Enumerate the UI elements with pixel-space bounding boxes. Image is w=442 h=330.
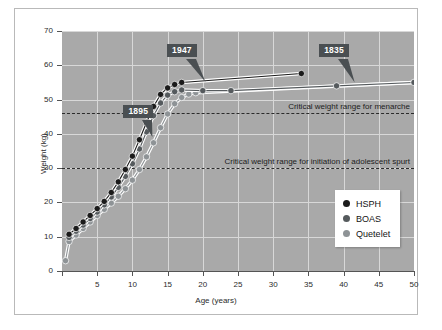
x-tick — [97, 271, 98, 276]
data-point — [73, 225, 79, 231]
y-tick-label: 20 — [31, 197, 53, 206]
x-tick — [379, 271, 380, 276]
y-tick-label: 0 — [31, 266, 53, 275]
data-point — [66, 231, 72, 237]
y-tick-label: 10 — [31, 232, 53, 241]
legend-item-boas: BOAS — [343, 211, 390, 226]
x-tick — [168, 271, 169, 276]
legend-marker-icon — [343, 200, 350, 207]
data-point — [108, 189, 114, 195]
x-tick — [414, 271, 415, 276]
data-point — [171, 100, 177, 106]
x-tick — [238, 271, 239, 276]
y-tick-label: 60 — [31, 60, 53, 69]
callout-1895: 1895 — [123, 105, 153, 119]
data-point — [171, 81, 177, 87]
data-point — [171, 88, 177, 94]
y-tick-label: 70 — [31, 26, 53, 35]
callout-tail-1835 — [335, 59, 395, 96]
data-point — [62, 258, 68, 264]
data-point — [143, 154, 149, 160]
callout-1835: 1835 — [319, 44, 349, 58]
x-tick — [132, 271, 133, 276]
x-tick-label: 30 — [262, 280, 284, 289]
data-point — [157, 91, 163, 97]
legend-marker-icon — [343, 215, 350, 222]
figure-frame: 010203040506070 5101520253035404550 Weig… — [14, 8, 418, 315]
x-tick-label: 15 — [157, 280, 179, 289]
callout-1947: 1947 — [167, 44, 197, 58]
y-tick-label: 50 — [31, 95, 53, 104]
data-point — [80, 219, 86, 225]
data-point — [122, 166, 128, 172]
legend-marker-icon — [343, 230, 350, 237]
x-tick — [62, 271, 63, 276]
x-tick-label: 40 — [333, 280, 355, 289]
x-tick-label: 25 — [227, 280, 249, 289]
legend-label: HSPH — [356, 199, 381, 209]
data-point — [178, 94, 184, 100]
legend-item-quetelet: Quetelet — [343, 226, 390, 241]
data-point — [164, 111, 170, 117]
y-axis-title: Weight (kg) — [39, 133, 48, 174]
data-point — [115, 193, 121, 199]
chart-legend: HSPHBOASQuetelet — [335, 190, 400, 247]
data-point — [411, 79, 414, 85]
data-point — [87, 212, 93, 218]
x-tick-label: 50 — [403, 280, 425, 289]
data-point — [122, 186, 128, 192]
figure-page: 010203040506070 5101520253035404550 Weig… — [0, 0, 442, 330]
x-tick-label: 45 — [368, 280, 390, 289]
x-tick — [203, 271, 204, 276]
data-point — [164, 92, 170, 98]
data-point — [136, 166, 142, 172]
legend-label: BOAS — [356, 214, 381, 224]
callout-tail-1947 — [183, 59, 246, 95]
x-tick — [308, 271, 309, 276]
x-tick-label: 20 — [192, 280, 214, 289]
callout-tail-1895 — [139, 120, 192, 150]
x-tick-label: 35 — [297, 280, 319, 289]
data-point — [94, 205, 100, 211]
data-point — [129, 177, 135, 183]
x-tick — [273, 271, 274, 276]
data-point — [298, 70, 304, 76]
x-tick-label: 10 — [121, 280, 143, 289]
legend-label: Quetelet — [356, 229, 390, 239]
x-tick-label: 5 — [86, 280, 108, 289]
x-tick — [344, 271, 345, 276]
x-axis-title: Age (years) — [15, 296, 417, 305]
data-point — [164, 85, 170, 91]
legend-item-hsph: HSPH — [343, 196, 390, 211]
data-point — [115, 179, 121, 185]
data-point — [129, 153, 135, 159]
data-point — [101, 198, 107, 204]
